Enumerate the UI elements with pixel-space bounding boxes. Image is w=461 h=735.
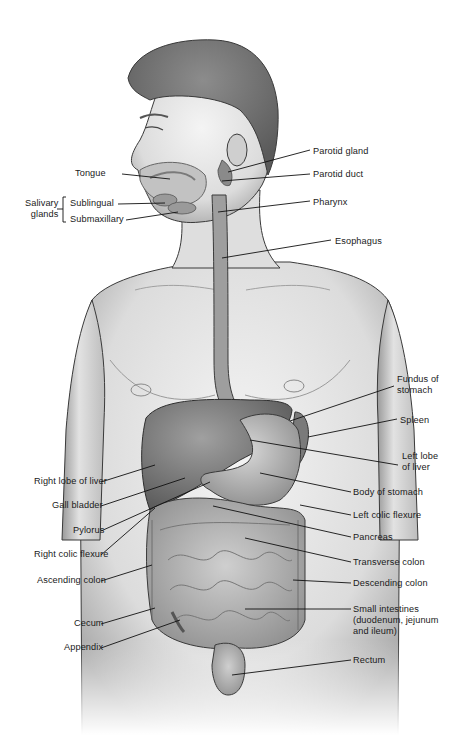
label-cecum: Cecum bbox=[74, 618, 104, 629]
label-pharynx: Pharynx bbox=[313, 197, 347, 208]
label-right-lobe-of-liver: Right lobe of liver bbox=[34, 476, 107, 487]
label-appendix: Appendix bbox=[64, 642, 103, 653]
label-left-lobe-of-liver: Left lobe of liver bbox=[402, 451, 438, 473]
label-small-intestines: Small intestines (duodenum, jejunum and … bbox=[353, 604, 439, 637]
label-tongue: Tongue bbox=[75, 168, 106, 179]
rectum-organ bbox=[212, 643, 245, 695]
label-body-of-stomach: Body of stomach bbox=[353, 487, 423, 498]
intestines-organ bbox=[146, 498, 305, 649]
label-parotid-duct: Parotid duct bbox=[313, 169, 363, 180]
label-salivary-glands: Salivary glands bbox=[25, 198, 58, 220]
ear bbox=[227, 134, 247, 166]
label-transverse-colon: Transverse colon bbox=[353, 557, 425, 568]
label-submaxillary: Submaxillary bbox=[70, 214, 124, 225]
label-spleen: Spleen bbox=[400, 415, 429, 426]
label-gall-bladder: Gall bladder bbox=[52, 500, 103, 511]
label-pancreas: Pancreas bbox=[353, 532, 393, 543]
label-descending-colon: Descending colon bbox=[353, 578, 428, 589]
label-fundus-of-stomach: Fundus of stomach bbox=[397, 374, 439, 396]
label-left-colic-flexure: Left colic flexure bbox=[353, 510, 421, 521]
label-pylorus: Pylorus bbox=[73, 525, 104, 536]
label-rectum: Rectum bbox=[353, 655, 385, 666]
label-right-colic-flexure: Right colic flexure bbox=[34, 549, 108, 560]
label-parotid-gland: Parotid gland bbox=[313, 146, 368, 157]
label-sublingual: Sublingual bbox=[70, 198, 114, 209]
label-ascending-colon: Ascending colon bbox=[37, 575, 106, 586]
label-esophagus: Esophagus bbox=[335, 236, 382, 247]
